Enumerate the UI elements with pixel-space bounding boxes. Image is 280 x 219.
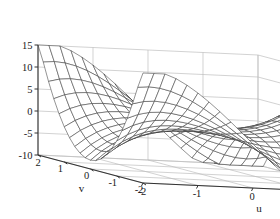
axis-tick-labels-item: 2: [35, 157, 40, 168]
axis-tick-labels-item: -10: [19, 150, 33, 161]
axis-tick-labels-item: -1: [108, 177, 117, 188]
axis-tick-labels-item: 10: [22, 62, 33, 73]
surface-mesh-item: [278, 108, 280, 116]
axis-tick-labels-item: 15: [22, 40, 33, 51]
plot-canvas: 151050-5-10210-1-2-2-1012vu: [0, 0, 280, 219]
axis-tick-labels-item: 0: [84, 170, 89, 181]
axis-tick-labels-item: 1: [58, 163, 63, 174]
surface-mesh: [38, 45, 280, 193]
axis-tick-labels-item: 0: [249, 191, 254, 202]
back-wall-grid-item: [258, 55, 280, 83]
back-wall-grid-item: [258, 77, 280, 105]
axis-tick-labels-item: -5: [24, 128, 33, 139]
axis-tick-labels-item: 5: [27, 84, 32, 95]
v-axis-label: v: [79, 182, 85, 194]
u-axis-label: u: [256, 202, 262, 214]
axis-tick-labels-item: -1: [193, 188, 202, 199]
axis-tick-labels-item: -2: [138, 186, 147, 197]
axis-tick-labels-item: 0: [27, 106, 32, 117]
surface-plot-figure: 151050-5-10210-1-2-2-1012vu: [0, 0, 280, 219]
axis-lines-item: [143, 183, 280, 193]
